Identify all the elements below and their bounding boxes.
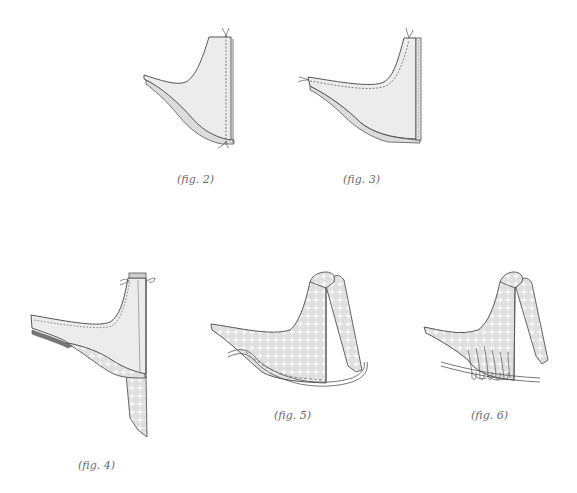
fabric-piece <box>31 278 146 374</box>
thread-top-icon <box>222 28 229 37</box>
hanging-strip <box>126 374 147 437</box>
figure-2 <box>144 28 234 148</box>
strap <box>326 276 362 373</box>
strap <box>516 278 548 364</box>
thread-top-icon <box>406 28 413 38</box>
thread-left-icon <box>298 77 309 82</box>
caption-fig2: (fig. 2) <box>177 173 214 186</box>
caption-fig6: (fig. 6) <box>471 409 508 422</box>
illustration-canvas: (fig. 2) (fig. 3) (fig. 4) <box>0 0 577 493</box>
caption-fig5: (fig. 5) <box>274 409 311 422</box>
top-binding <box>129 273 146 278</box>
figure-4 <box>31 273 155 437</box>
caption-fig4: (fig. 4) <box>78 459 115 472</box>
figure-3 <box>298 28 421 143</box>
caption-fig3: (fig. 3) <box>343 173 380 186</box>
fabric-piece-patterned <box>424 279 515 380</box>
fabric-piece-patterned <box>211 279 326 383</box>
figure-6 <box>424 272 548 382</box>
figure-5 <box>211 272 367 386</box>
thread-right-icon <box>146 278 155 282</box>
